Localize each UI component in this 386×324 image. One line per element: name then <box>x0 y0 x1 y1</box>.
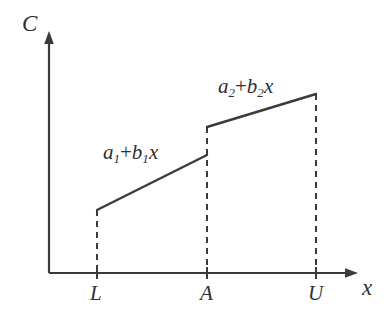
y-axis-label: C <box>22 12 37 35</box>
segment-1-annotation: a1+b1x <box>103 142 158 165</box>
segment-2-coef-a: a <box>218 74 229 98</box>
segment-1-variable: x <box>149 140 158 164</box>
tick-label-A: A <box>200 283 213 304</box>
segment-2-annotation: a2+b2x <box>218 76 273 99</box>
segment-2-variable: x <box>264 74 273 98</box>
segment-1-coef-b: b <box>132 140 143 164</box>
x-axis-arrowhead <box>345 268 358 278</box>
segment-1-operator: + <box>120 140 132 164</box>
x-axis-label: x <box>362 276 372 299</box>
figure-canvas <box>0 0 386 324</box>
tick-label-L: L <box>90 283 102 304</box>
tick-label-U: U <box>308 283 323 304</box>
segment-2-coef-b: b <box>247 74 258 98</box>
segment-1-coef-a: a <box>103 140 114 164</box>
piecewise-cost-function-figure: C x a1+b1x a2+b2x L A U <box>0 0 386 324</box>
y-axis-arrowhead <box>44 31 54 44</box>
segment-2-operator: + <box>235 74 247 98</box>
